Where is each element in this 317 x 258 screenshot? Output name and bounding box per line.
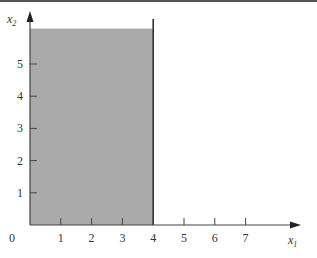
x-tick-label: 1 [58,231,64,245]
feasible-region [30,29,153,225]
x-tick-label: 7 [243,231,249,245]
y-tick-label: 1 [17,186,23,200]
origin-label: 0 [9,231,15,245]
x-tick-label: 3 [119,231,125,245]
chart: 123456712345 x2 x1 0 [0,0,317,258]
x-tick-label: 4 [150,231,156,245]
y-tick-label: 3 [17,121,23,135]
x-axis-arrow-icon [290,222,301,229]
y-axis-arrow-icon [27,11,34,22]
feasible-region [30,29,153,225]
x-tick-label: 5 [181,231,187,245]
x-tick-label: 6 [212,231,218,245]
y-tick-label: 4 [17,89,23,103]
y-tick-label: 5 [17,57,23,71]
y-axis-label: x2 [6,12,16,28]
y-tick-label: 2 [17,154,23,168]
x-tick-label: 2 [89,231,95,245]
x-axis-label: x1 [287,233,297,249]
